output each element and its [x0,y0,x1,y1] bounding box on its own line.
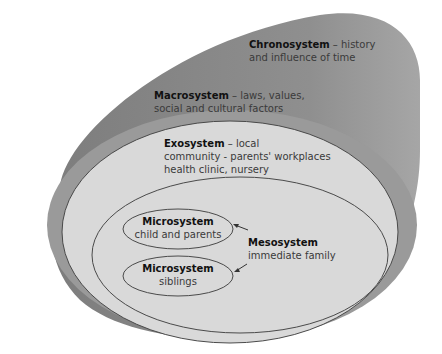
exosystem-desc-2: community - parents' workplaces [164,151,331,162]
microsystem-title-2: Microsystem [142,263,214,274]
exosystem-label: Exosystem – local community - parents' w… [164,137,331,176]
chronosystem-title: Chronosystem [249,39,330,50]
mesosystem-label: Mesosystem immediate family [248,236,336,262]
microsystem-label-2: Microsystem siblings [128,262,228,288]
microsystem-desc-1: child and parents [135,229,222,240]
exosystem-desc-1: – local [225,138,260,149]
mesosystem-title: Mesosystem [248,237,318,248]
macrosystem-desc-2: social and cultural factors [154,103,283,114]
microsystem-title-1: Microsystem [142,216,214,227]
microsystem-label-1: Microsystem child and parents [128,215,228,241]
exosystem-desc-3: health clinic, nursery [164,164,269,175]
macrosystem-desc-1: – laws, values, [229,90,305,101]
macrosystem-label: Macrosystem – laws, values, social and c… [154,89,305,115]
chronosystem-desc-1: – history [330,39,376,50]
macrosystem-title: Macrosystem [154,90,229,101]
bronfenbrenner-diagram [0,0,442,354]
chronosystem-label: Chronosystem – history and influence of … [249,38,375,64]
exosystem-title: Exosystem [164,138,225,149]
chronosystem-desc-2: and influence of time [249,52,355,63]
mesosystem-desc: immediate family [248,250,336,261]
microsystem-desc-2: siblings [159,276,197,287]
mesosystem-shape [92,177,388,333]
